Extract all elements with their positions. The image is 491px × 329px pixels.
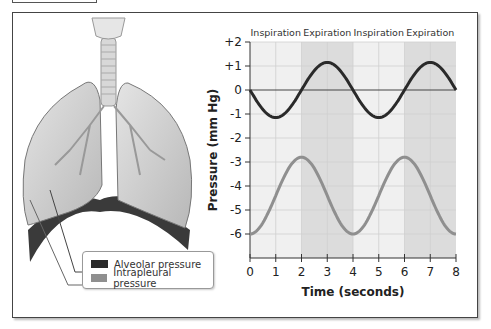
- pressure-chart: InspirationExpirationInspirationExpirati…: [0, 0, 491, 329]
- y-tick-label: -5: [230, 203, 242, 217]
- legend-item-intrapleural: Intrapleural pressure: [91, 272, 213, 284]
- phase-label: Expiration: [406, 27, 454, 38]
- x-tick-label: 7: [426, 265, 434, 279]
- y-tick-label: +2: [224, 35, 242, 49]
- x-tick-label: 5: [375, 265, 383, 279]
- y-tick-label: +1: [224, 59, 242, 73]
- x-axis-label: Time (seconds): [301, 285, 404, 299]
- x-tick-label: 2: [298, 265, 306, 279]
- y-tick-label: -3: [230, 155, 242, 169]
- phase-label: Expiration: [303, 27, 351, 38]
- y-tick-label: -1: [230, 107, 242, 121]
- x-tick-label: 8: [452, 265, 460, 279]
- legend: Alveolar pressure Intrapleural pressure: [82, 251, 214, 289]
- x-tick-label: 3: [323, 265, 331, 279]
- intrapleural-swatch: [91, 274, 107, 282]
- x-tick-label: 1: [272, 265, 280, 279]
- y-tick-label: -4: [230, 179, 242, 193]
- y-axis-label: Pressure (mm Hg): [206, 89, 220, 212]
- legend-label: Intrapleural pressure: [113, 267, 213, 289]
- y-tick-label: -6: [230, 227, 242, 241]
- x-tick-label: 4: [349, 265, 357, 279]
- x-tick-label: 6: [401, 265, 409, 279]
- phase-label: Inspiration: [354, 27, 404, 38]
- phase-label: Inspiration: [251, 27, 301, 38]
- x-tick-label: 0: [246, 265, 254, 279]
- y-tick-label: -2: [230, 131, 242, 145]
- y-tick-label: 0: [234, 83, 242, 97]
- alveolar-swatch: [91, 260, 108, 268]
